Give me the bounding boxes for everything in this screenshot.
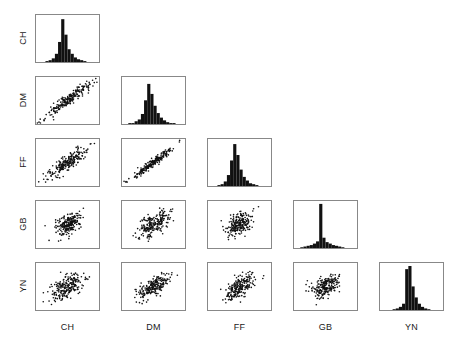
splom-scatter-dm-vs-ch [35,76,100,125]
splom-histogram-ch [35,14,100,63]
row-label-yn: YN [18,274,28,298]
splom-scatter-gb-vs-ch [35,200,100,249]
row-label-ff: FF [18,150,28,174]
splom-scatter-gb-vs-ff [207,200,272,249]
splom-histogram-gb [293,200,358,249]
splom-histogram-ff [207,138,272,187]
splom-scatter-ff-vs-dm [121,138,186,187]
row-label-ch: CH [18,26,28,50]
splom-scatter-yn-vs-ff [207,262,272,311]
col-label-gb: GB [296,322,356,332]
splom-histogram-dm [121,76,186,125]
row-label-dm: DM [18,88,28,112]
col-label-ff: FF [210,322,270,332]
row-label-gb: GB [18,212,28,236]
splom-histogram-yn [379,262,444,311]
splom-scatter-yn-vs-dm [121,262,186,311]
splom-figure: CHDMFFGBYNCHDMFFGBYN [0,0,455,353]
splom-scatter-gb-vs-dm [121,200,186,249]
col-label-ch: CH [38,322,98,332]
col-label-dm: DM [124,322,184,332]
splom-scatter-yn-vs-ch [35,262,100,311]
splom-scatter-yn-vs-gb [293,262,358,311]
col-label-yn: YN [382,322,442,332]
splom-scatter-ff-vs-ch [35,138,100,187]
